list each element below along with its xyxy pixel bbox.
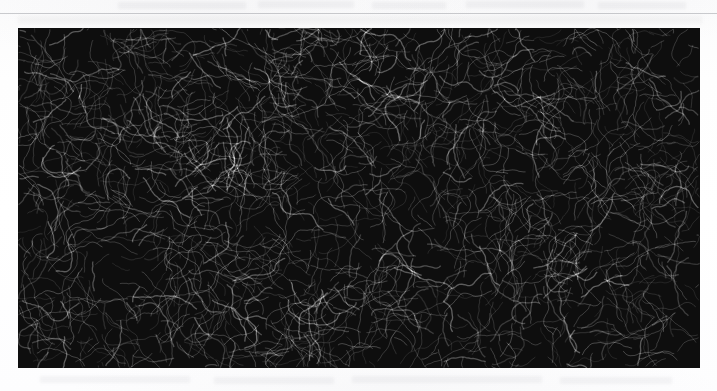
point-distribution-canvas bbox=[18, 28, 700, 368]
ghost-text-row bbox=[214, 377, 334, 384]
large-scale-structure-panel bbox=[18, 28, 700, 368]
scanned-page bbox=[0, 0, 717, 391]
ghost-text-row bbox=[352, 376, 542, 383]
ghost-text-row bbox=[372, 2, 446, 9]
sub-rule-ghost-band bbox=[18, 16, 702, 24]
ghost-text-row bbox=[598, 2, 686, 9]
ghost-text-row bbox=[466, 1, 584, 8]
ghost-text-row bbox=[40, 376, 190, 383]
ghost-text-row bbox=[258, 1, 354, 8]
ghost-text-row bbox=[560, 377, 672, 384]
ghost-text-row bbox=[118, 2, 246, 9]
top-horizontal-rule bbox=[0, 13, 717, 14]
